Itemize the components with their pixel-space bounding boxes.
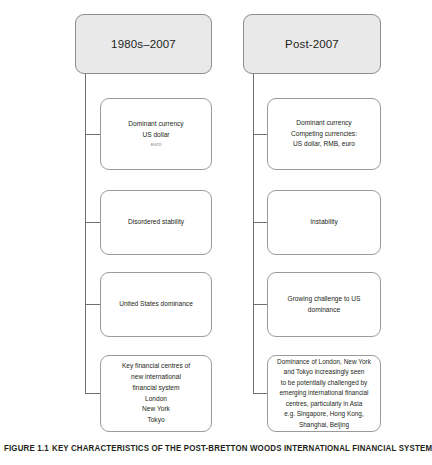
node-line: Competing currencies: [273, 129, 375, 140]
node-line: financial system [106, 383, 206, 394]
figure-caption: FIGURE 1.1 KEY CHARACTERISTICS OF THE PO… [4, 443, 408, 453]
node-right-currency-text: Dominant currency Competing currencies: … [273, 118, 375, 151]
node-line: centres, particularly in Asia [270, 399, 378, 409]
header-box-right: Post-2007 [243, 14, 381, 74]
header-label-left: 1980s–2007 [111, 38, 176, 50]
node-left-dominance-text: United States dominance [106, 299, 206, 310]
node-left-centres-text: Key financial centres of new internation… [106, 361, 206, 426]
node-line: to be potentially challenged by [270, 378, 378, 388]
header-label-right: Post-2007 [285, 38, 339, 50]
node-line: US dollar, RMB, euro [273, 139, 375, 150]
header-box-left: 1980s–2007 [75, 14, 212, 74]
node-left-stability: Disordered stability [100, 190, 212, 255]
node-line: and Tokyo increasingly seen [270, 367, 378, 377]
node-right-instability: Instability [267, 190, 381, 255]
node-line: Key financial centres of [106, 361, 206, 372]
figure-caption-text: KEY CHARACTERISTICS OF THE POST-BRETTON … [52, 443, 432, 453]
node-line: Disordered stability [106, 217, 206, 228]
node-line: New York [106, 404, 206, 415]
node-line: Shanghai, Beijing [270, 420, 378, 430]
node-line: Tokyo [106, 415, 206, 426]
node-line: Dominant currency [106, 119, 206, 130]
node-line: e.g. Singapore, Hong Kong, [270, 409, 378, 419]
node-line: Dominant currency [273, 118, 375, 129]
node-right-centres: Dominance of London, New York and Tokyo … [267, 355, 381, 432]
node-line: US dollar [106, 130, 206, 141]
node-left-dominance: United States dominance [100, 272, 212, 337]
node-right-challenge: Growing challenge to US dominance [267, 272, 381, 337]
node-line: new international [106, 372, 206, 383]
node-left-stability-text: Disordered stability [106, 217, 206, 228]
node-line: London [106, 394, 206, 405]
node-line: emerging international financial [270, 388, 378, 398]
node-left-centres: Key financial centres of new internation… [100, 355, 212, 432]
node-line: Growing challenge to US [273, 294, 375, 305]
node-left-currency: Dominant currency US dollar euro [100, 98, 212, 170]
node-left-currency-text: Dominant currency US dollar euro [106, 119, 206, 150]
figure-caption-label: FIGURE 1.1 [4, 443, 49, 453]
node-line: United States dominance [106, 299, 206, 310]
node-right-instability-text: Instability [273, 217, 375, 228]
node-right-centres-text: Dominance of London, New York and Tokyo … [270, 357, 378, 430]
node-right-currency: Dominant currency Competing currencies: … [267, 98, 381, 170]
node-line: Dominance of London, New York [270, 357, 378, 367]
node-line: Instability [273, 217, 375, 228]
node-right-challenge-text: Growing challenge to US dominance [273, 294, 375, 316]
node-line: dominance [273, 305, 375, 316]
node-line-faint: euro [106, 140, 206, 149]
